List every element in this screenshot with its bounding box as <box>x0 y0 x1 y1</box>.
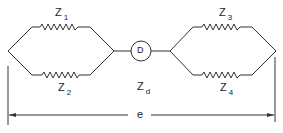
label-z2: Z2 <box>58 82 71 93</box>
label-z3: Z3 <box>219 7 232 18</box>
right-network-upper-branch <box>170 24 276 51</box>
right-network-lower-branch <box>170 51 276 78</box>
circuit-diagram: Z1 Z2 Z3 Z4 Zd D e <box>0 0 283 133</box>
label-detector: D <box>137 46 144 55</box>
left-network-lower-branch <box>8 51 114 78</box>
label-zd: Zd <box>137 81 150 92</box>
label-z4: Z4 <box>220 82 233 93</box>
left-network-upper-branch <box>8 24 114 51</box>
label-span-e: e <box>137 109 143 120</box>
label-z1: Z1 <box>55 7 68 18</box>
